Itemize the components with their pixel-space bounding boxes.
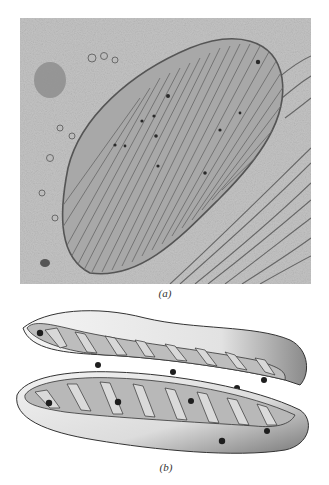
panel-b-label: (b) [146,461,186,473]
mitochondrion-illustration [5,300,320,465]
panel-a-label: (a) [145,287,185,299]
figure-caption-fragment [0,479,329,485]
electron-micrograph [20,18,311,284]
